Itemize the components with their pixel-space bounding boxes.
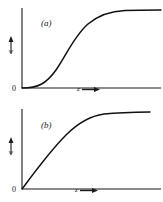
x-axis-label-group-a: z — [77, 86, 100, 93]
x-axis-label-group-b: z — [75, 187, 98, 194]
plot-panel-a: (a) 0 w z — [0, 0, 163, 101]
panel-label-b: (b) — [41, 121, 52, 130]
plot-panel-b: (b) 0 w z — [0, 101, 163, 202]
origin-label-a: 0 — [12, 85, 16, 93]
x-axis-arrow-icon-a — [82, 86, 100, 93]
x-axis-label-a: z — [77, 86, 80, 93]
y-axis-label-a: w — [5, 48, 17, 55]
origin-label-b: 0 — [12, 186, 16, 194]
panel-label-a: (a) — [41, 19, 52, 28]
x-axis-arrow-icon-b — [80, 187, 98, 194]
figure-container: (a) 0 w z (b) 0 w z — [0, 0, 163, 202]
x-axis-label-b: z — [75, 187, 78, 194]
y-axis-label-b: w — [5, 149, 17, 156]
